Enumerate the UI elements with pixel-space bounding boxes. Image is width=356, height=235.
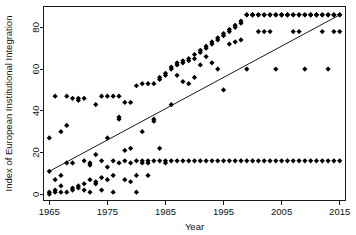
plot-canvas: 196519751985199520052015020406080 YearIn… [0, 0, 356, 235]
y-tick-label: 0 [30, 192, 41, 197]
x-tick-label: 1985 [155, 206, 176, 217]
x-axis-title: Year [185, 221, 204, 232]
y-tick-label: 60 [30, 64, 41, 75]
x-tick-label: 2005 [271, 206, 292, 217]
y-tick-label: 20 [30, 147, 41, 158]
y-axis-title: Index of European Institutional Integrat… [3, 16, 14, 192]
x-tick-label: 1965 [39, 206, 60, 217]
scatter-plot-figure: 196519751985199520052015020406080 YearIn… [0, 0, 356, 235]
x-tick-label: 2015 [329, 206, 350, 217]
y-tick-label: 80 [30, 22, 41, 33]
x-tick-label: 1995 [213, 206, 234, 217]
x-tick-label: 1975 [97, 206, 118, 217]
y-tick-label: 40 [30, 106, 41, 117]
